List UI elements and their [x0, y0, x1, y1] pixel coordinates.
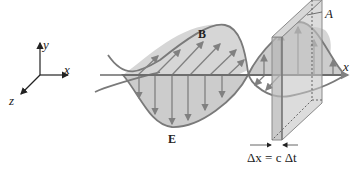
electric-field-label: E [168, 133, 176, 145]
x-axis-label: x [64, 63, 70, 76]
em-wave-diagram [0, 0, 353, 169]
propagation-axis-label: x [343, 60, 349, 73]
z-axis-label: z [9, 94, 14, 107]
y-axis-label: y [43, 38, 49, 51]
slab-thickness-equation: Δx = c Δt [247, 151, 297, 164]
area-label: A [325, 7, 333, 20]
magnetic-field-label: B [198, 28, 206, 40]
